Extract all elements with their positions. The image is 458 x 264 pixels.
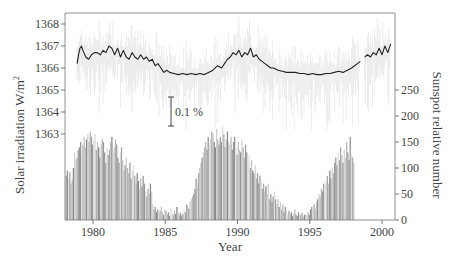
sunspot-bar	[223, 134, 224, 220]
sunspot-bar	[289, 214, 290, 220]
sunspot-bar	[108, 155, 109, 220]
sunspot-bar	[317, 199, 318, 220]
sunspot-bar	[244, 158, 245, 220]
sunspot-bar	[305, 214, 306, 220]
x-tick-label: 1985	[153, 225, 177, 239]
sunspot-bar	[97, 142, 98, 220]
sunspot-bar	[110, 142, 111, 220]
sunspot-bar	[181, 216, 182, 220]
sunspot-bar	[161, 207, 162, 220]
sunspot-bar	[234, 137, 235, 220]
sunspot-bar	[292, 216, 293, 220]
y-right-tick-label: 250	[401, 83, 419, 97]
sunspot-bar	[78, 150, 79, 220]
sunspot-bar	[156, 212, 157, 220]
sunspot-bar	[282, 204, 283, 220]
sunspot-bar	[226, 139, 227, 220]
sunspot-bar	[340, 147, 341, 220]
sunspot-bar	[286, 210, 287, 220]
left-axis-ticks: 136313641365136613671368	[35, 17, 65, 141]
sunspot-bar	[304, 215, 305, 220]
sunspot-bar	[131, 178, 132, 220]
sunspot-bar	[143, 176, 144, 220]
sunspot-bar	[279, 207, 280, 220]
sunspot-bar	[323, 184, 324, 220]
sunspot-bar	[116, 145, 117, 220]
sunspot-bar	[245, 145, 246, 220]
sunspot-bar	[194, 189, 195, 220]
sunspot-bar	[263, 184, 264, 220]
sunspot-bar	[253, 173, 254, 220]
sunspot-bar	[153, 210, 154, 220]
sunspot-bar	[240, 152, 241, 220]
sunspot-bar	[170, 209, 171, 220]
sunspot-bar	[288, 211, 289, 220]
x-tick-label: 1995	[298, 225, 322, 239]
sunspot-bar	[70, 184, 71, 220]
sunspot-bar	[212, 134, 213, 220]
sunspot-bar	[217, 139, 218, 220]
sunspot-bar	[320, 197, 321, 220]
y-left-tick-label: 1363	[35, 127, 59, 141]
sunspot-bar	[249, 155, 250, 220]
sunspot-bar	[306, 216, 307, 220]
y-left-tick-label: 1364	[35, 105, 59, 119]
sunspot-bar	[86, 139, 87, 220]
y-right-tick-label: 200	[401, 109, 419, 123]
sunspot-bar	[132, 171, 133, 220]
y-right-tick-label: 50	[401, 187, 413, 201]
sunspot-bar	[99, 158, 100, 220]
sunspot-bar	[246, 152, 247, 220]
right-axis-ticks: 050100150200250	[395, 83, 419, 227]
sunspot-bar	[167, 214, 168, 220]
sunspot-bar	[159, 211, 160, 220]
sunspot-bar	[345, 158, 346, 220]
sunspot-bar	[241, 139, 242, 220]
sunspot-bar	[127, 168, 128, 220]
sunspot-bar	[227, 132, 228, 220]
sunspot-bar	[250, 168, 251, 220]
sunspot-bar	[298, 212, 299, 220]
sunspot-bar	[347, 152, 348, 220]
sunspot-bar	[144, 184, 145, 220]
sunspot-bar	[188, 209, 189, 220]
sunspot-bar	[75, 160, 76, 220]
chart-svg: 19801985199019952000 1363136413651366136…	[0, 0, 458, 264]
sunspot-bar	[270, 194, 271, 220]
sunspot-bar	[129, 163, 130, 220]
sunspot-bar	[185, 212, 186, 220]
sunspot-bar	[147, 189, 148, 220]
sunspot-bar	[100, 145, 101, 220]
sunspot-bar	[141, 186, 142, 220]
sunspot-bar	[74, 152, 75, 220]
sunspot-bar	[208, 137, 209, 220]
sunspot-bar	[228, 142, 229, 220]
sunspot-bar	[274, 191, 275, 220]
sunspot-bar	[171, 213, 172, 220]
sunspot-bar	[192, 197, 193, 220]
sunspot-bar	[199, 168, 200, 220]
sunspot-bar	[198, 173, 199, 220]
sunspot-bar	[157, 210, 158, 220]
sunspot-bar	[297, 216, 298, 220]
sunspot-bar	[218, 145, 219, 220]
sunspot-bar	[93, 139, 94, 220]
sunspot-bar	[84, 137, 85, 220]
sunspot-bar	[216, 129, 217, 220]
sunspot-bar	[146, 197, 147, 220]
sunspot-bar	[92, 145, 93, 220]
y-left-axis-label: Solar irradiation W/m2	[12, 76, 27, 194]
sunspot-bar	[120, 152, 121, 220]
sunspot-bar	[335, 158, 336, 220]
y-left-axis-label-sup: 2	[12, 76, 21, 80]
sunspot-bar	[175, 214, 176, 220]
sunspot-bar	[98, 147, 99, 220]
sunspot-bar	[229, 145, 230, 220]
sunspot-bar	[164, 210, 165, 220]
sunspot-bar	[258, 184, 259, 220]
sunspot-bar	[230, 137, 231, 220]
sunspot-bar	[206, 150, 207, 220]
sunspot-bar	[152, 204, 153, 220]
sunspot-bar	[91, 137, 92, 220]
sunspot-bar	[205, 142, 206, 220]
